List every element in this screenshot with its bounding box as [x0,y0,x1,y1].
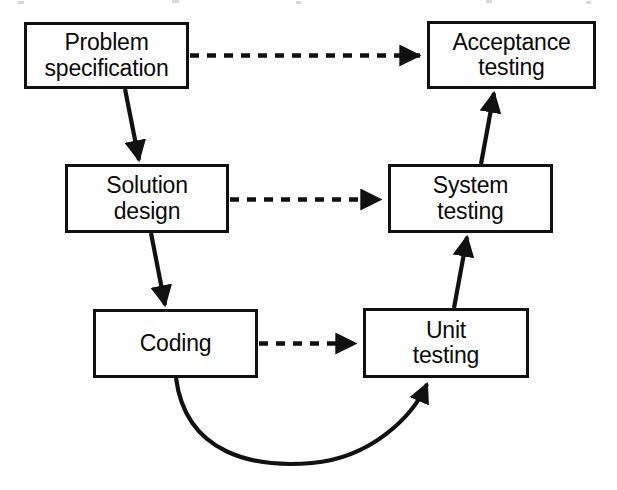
node-label-solution-design: Solution design [102,173,192,224]
connector-solution-to-coding [151,233,165,305]
node-label-system-testing: System testing [429,173,512,224]
node-acceptance-testing[interactable]: Acceptance testing [427,21,596,89]
node-label-coding: Coding [136,331,216,356]
node-coding[interactable]: Coding [93,309,258,378]
node-label-unit-testing: Unit testing [409,318,483,369]
scan-artifact [296,1,301,4]
node-label-problem-specification: Problem specification [41,30,173,81]
node-solution-design[interactable]: Solution design [65,164,229,233]
connector-problem-to-solution [125,89,139,160]
scan-artifact [586,1,591,4]
node-label-acceptance-testing: Acceptance testing [448,30,574,81]
scan-artifact [172,0,179,3]
connector-coding-to-unit-curve [176,378,427,464]
node-system-testing[interactable]: System testing [388,164,553,233]
scan-artifact [486,0,492,3]
node-problem-specification[interactable]: Problem specification [24,22,189,89]
scan-artifact [18,1,24,4]
connector-system-to-acceptance [481,93,494,164]
node-unit-testing[interactable]: Unit testing [363,308,529,378]
connector-unit-to-system [454,237,467,308]
v-model-diagram: Acceptance testing (dashed) --> System t… [0,0,617,490]
